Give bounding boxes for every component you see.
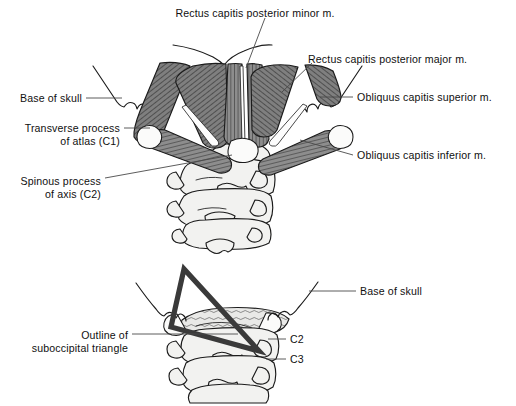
label-transverse-process-line1: Transverse process <box>25 122 120 134</box>
label-transverse-process-line2: of atlas (C1) <box>60 135 120 147</box>
label-rectus-capitis-posterior-major: Rectus capitis posterior major m. <box>308 53 467 65</box>
transverse-process-atlas-left <box>137 126 162 149</box>
label-base-of-skull-top: Base of skull <box>20 92 82 104</box>
label-obliquus-capitis-superior: Obliquus capitis superior m. <box>357 91 492 103</box>
label-outline-line1: Outline of <box>81 329 128 341</box>
right-skull-margin-lower <box>268 282 318 320</box>
label-c2: C2 <box>290 333 304 345</box>
label-base-of-skull-bottom: Base of skull <box>360 285 422 297</box>
obliquus-capitis-superior-right <box>305 65 341 106</box>
anatomy-illustration: Rectus capitis posterior minor m. Rectus… <box>0 0 516 406</box>
c4-body-lower <box>188 384 268 403</box>
transverse-process-atlas-right <box>328 126 353 149</box>
label-spinous-process-line1: Spinous process <box>20 175 101 187</box>
spinous-process-axis-knob <box>228 138 258 162</box>
label-c3: C3 <box>290 353 304 365</box>
label-rectus-capitis-posterior-minor: Rectus capitis posterior minor m. <box>175 7 334 19</box>
anatomy-figure: Rectus capitis posterior minor m. Rectus… <box>0 0 516 406</box>
nuchal-line-curve <box>173 45 272 65</box>
top-panel-muscles <box>134 62 353 175</box>
label-obliquus-capitis-inferior: Obliquus capitis inferior m. <box>357 149 486 161</box>
c4-spinous-process <box>206 239 234 254</box>
label-outline-line2: suboccipital triangle <box>32 342 128 354</box>
label-spinous-process-line2: of axis (C2) <box>45 188 101 200</box>
bottom-panel-vertebrae <box>164 308 289 404</box>
leader-rcp-minor <box>246 18 265 68</box>
